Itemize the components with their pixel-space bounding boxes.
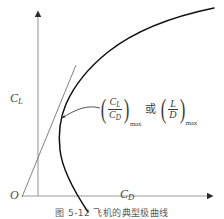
- figure-container: CL CD O ( CL CD ) max 或 ( L D ) max 图: [0, 0, 224, 219]
- origin-label: O: [10, 189, 19, 201]
- y-axis-label-subscript: L: [18, 96, 23, 106]
- conjunction-or: 或: [145, 104, 156, 115]
- fraction-numerator: CL: [109, 97, 122, 109]
- denominator-base: C: [109, 109, 116, 120]
- annotation-leader: [62, 107, 100, 118]
- cl-over-cd-expression: ( CL CD ) max: [99, 97, 142, 122]
- l-over-d-expression: ( L D ) max: [159, 99, 198, 121]
- max-subscript-2: max: [186, 120, 197, 127]
- right-paren-1-icon: ): [124, 100, 130, 119]
- left-paren-1-icon: (: [101, 100, 107, 119]
- y-axis-label-base: C: [10, 91, 18, 105]
- x-axis-label: CD: [120, 188, 134, 202]
- x-axis-label-base: C: [120, 187, 128, 201]
- cl-cd-fraction: CL CD: [108, 97, 122, 122]
- fraction-denominator-2: D: [168, 109, 177, 121]
- l-d-fraction: L D: [168, 99, 177, 121]
- numerator-subscript: L: [116, 101, 120, 109]
- fraction-denominator: CD: [108, 109, 122, 122]
- denominator-subscript: D: [116, 114, 121, 122]
- figure-caption: 图 5-12 飞机的典型极曲线: [0, 206, 224, 219]
- x-axis-label-subscript: D: [128, 192, 134, 202]
- fraction-numerator-2: L: [169, 99, 177, 110]
- max-subscript-1: max: [130, 121, 141, 128]
- annotation-leader-line: [62, 107, 100, 118]
- y-axis-label: CL: [10, 92, 23, 106]
- max-lift-drag-annotation: ( CL CD ) max 或 ( L D ) max: [99, 97, 198, 122]
- right-paren-2-icon: ): [179, 100, 185, 119]
- left-paren-2-icon: (: [161, 100, 167, 119]
